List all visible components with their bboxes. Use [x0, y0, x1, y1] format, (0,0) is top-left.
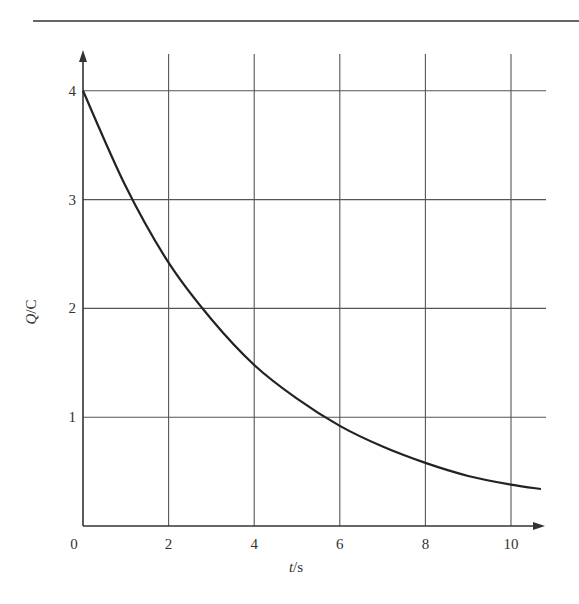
x-axis-label: t/s	[289, 559, 303, 575]
x-tick-labels: 0246810	[70, 536, 518, 552]
x-tick-label: 6	[336, 536, 344, 552]
x-axis-unit: /s	[293, 559, 303, 575]
x-tick-label: 4	[250, 536, 258, 552]
y-tick-label: 1	[69, 409, 77, 425]
y-tick-label: 4	[69, 83, 77, 99]
x-tick-label: 2	[165, 536, 173, 552]
y-tick-labels: 1234	[69, 83, 77, 425]
grid	[83, 54, 546, 526]
y-axis-label: Q/C	[23, 299, 39, 324]
x-tick-label: 0	[70, 536, 78, 552]
y-tick-label: 2	[69, 300, 77, 316]
y-tick-label: 3	[69, 192, 77, 208]
y-axis-arrow-icon	[79, 50, 87, 62]
x-tick-label: 10	[504, 536, 519, 552]
x-axis-arrow-icon	[533, 522, 545, 530]
y-axis-unit: /C	[23, 299, 39, 313]
x-tick-label: 8	[422, 536, 430, 552]
data-curve	[83, 91, 541, 489]
axes	[79, 50, 545, 530]
chart: 0246810 1234 t/s Q/C	[0, 0, 579, 604]
y-axis-var: Q	[23, 314, 39, 325]
